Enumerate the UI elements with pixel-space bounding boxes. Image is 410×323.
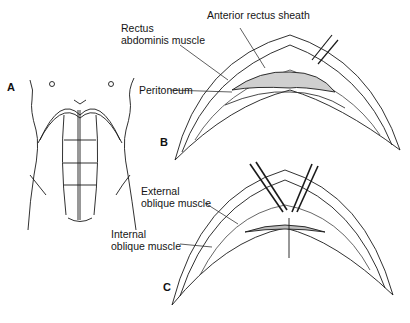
panel-b-incision [175,35,400,160]
illustration-drawing [0,0,410,323]
label-anterior-rectus-sheath: Anterior rectus sheath [207,9,310,21]
label-rectus-abdominis: Rectus abdominis muscle [121,22,205,46]
leader-lines [170,28,265,247]
anatomical-figure: A B C Rectus abdominis muscle Anterior r… [0,0,410,323]
panel-c-retraction [172,162,393,305]
panel-label-b: B [160,136,168,148]
label-external-oblique: External oblique muscle [141,185,211,209]
panel-label-c: C [163,281,171,293]
panel-label-a: A [7,81,15,93]
panel-a-torso [28,78,136,230]
label-internal-oblique: Internal oblique muscle [111,228,181,252]
label-peritoneum: Peritoneum [139,84,193,96]
